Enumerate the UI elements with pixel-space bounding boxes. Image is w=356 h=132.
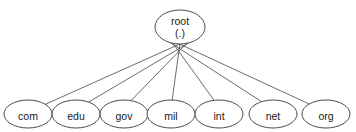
dns-hierarchy-diagram: root(.)comedugovmilintnetorg (0, 0, 356, 132)
node-root-label-line1: root (171, 15, 189, 27)
node-mil[interactable]: mil (147, 100, 195, 128)
node-org[interactable]: org (302, 100, 350, 128)
node-root[interactable]: root(.) (155, 10, 205, 44)
node-net[interactable]: net (249, 100, 297, 128)
node-edu-label: edu (67, 110, 85, 122)
edge-root-to-int (172, 42, 214, 100)
node-gov[interactable]: gov (100, 100, 148, 128)
node-mil-label: mil (164, 110, 177, 122)
diagram-canvas: root(.)comedugovmilintnetorg (0, 0, 356, 132)
node-gov-label: gov (116, 110, 134, 122)
node-com[interactable]: com (4, 100, 52, 128)
node-net-label: net (266, 110, 281, 122)
edge-root-to-net (165, 39, 261, 101)
node-int[interactable]: int (195, 100, 243, 128)
node-com-label: com (18, 110, 38, 122)
nodes-group: root(.)comedugovmilintnetorg (4, 10, 350, 128)
node-edu[interactable]: edu (52, 100, 100, 128)
node-int-label: int (213, 110, 224, 122)
node-org-label: org (318, 110, 333, 122)
edges-group (45, 35, 309, 104)
edge-root-to-org (160, 35, 309, 104)
node-root-label-line2: (.) (175, 27, 185, 39)
